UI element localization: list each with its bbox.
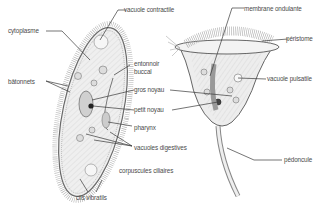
label-vacuole-pulsatile: vacuole pulsatile <box>267 75 312 82</box>
label-vacuole-contractile: vacuole contractile <box>124 6 174 13</box>
label-pharynx: pharynx <box>134 124 156 131</box>
label-cils-vibratils: cils vibratils <box>76 194 107 201</box>
diagram-art <box>0 0 323 208</box>
label-entonnoir: entonnoir <box>134 60 159 67</box>
label-pedoncule: pédoncule <box>284 156 312 163</box>
label-petit-noyau: petit noyau <box>134 106 164 113</box>
label-gros-noyau: gros noyau <box>134 86 164 93</box>
vorticella-illustration <box>166 31 279 196</box>
label-corpuscules-ciliaires: corpuscules ciliaires <box>119 167 173 174</box>
label-peristome: péristome <box>286 35 313 42</box>
label-buccal: buccal <box>134 68 152 75</box>
label-cytoplasme: cytoplasme <box>8 27 39 34</box>
label-membrane-ondulante: membrane ondulante <box>244 5 302 12</box>
paramecium-illustration <box>41 17 145 207</box>
label-batonnets: bâtonnets <box>8 78 35 85</box>
label-vacuoles-digestives: vacuoles digestives <box>134 144 187 151</box>
